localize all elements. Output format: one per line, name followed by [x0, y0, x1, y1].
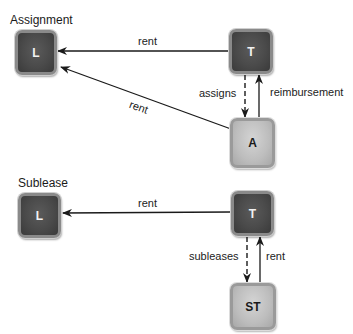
node-label: A [248, 136, 257, 150]
sublease-title: Sublease [18, 176, 68, 190]
sublease-rent-label: rent [138, 197, 157, 209]
sublease-subtenant-node: ST [230, 283, 276, 330]
node-label: T [249, 207, 256, 221]
assignment-title: Assignment [10, 13, 73, 27]
subleases-label: subleases [189, 250, 239, 262]
reimbursement-label: reimbursement [270, 86, 343, 98]
assignment-assignee-node: A [230, 118, 275, 168]
assignment-landlord-node: L [15, 30, 57, 75]
sublease-landlord-node: L [18, 193, 61, 238]
node-label: L [32, 46, 39, 60]
node-label: L [36, 209, 43, 223]
assignment-tenant-node: T [229, 29, 273, 74]
node-label: T [247, 45, 254, 59]
sublease-tenant-node: T [231, 191, 274, 236]
sublease-rent-t-to-l-arrow [63, 212, 230, 213]
node-label: ST [245, 300, 260, 314]
assigns-label: assigns [199, 87, 236, 99]
sublease-return-rent-label: rent [266, 250, 285, 262]
assignment-rent-label: rent [138, 35, 157, 47]
